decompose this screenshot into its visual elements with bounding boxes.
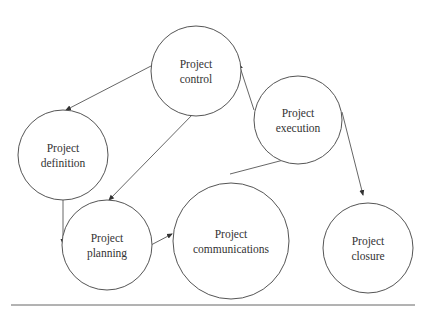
node-label-planning: Project — [91, 232, 124, 245]
node-label-control: control — [180, 73, 213, 85]
node-circle-closure — [323, 203, 413, 293]
arrow-planning-to-communications — [151, 234, 172, 245]
node-label-definition: definition — [41, 157, 86, 169]
arrow-control-to-definition — [66, 66, 151, 110]
node-label-planning: planning — [87, 247, 127, 260]
arrow-control-to-planning — [109, 112, 195, 200]
node-circle-communications — [173, 183, 289, 299]
node-label-communications: communications — [193, 243, 270, 255]
node-label-definition: Project — [47, 142, 80, 155]
node-communications: Projectcommunications — [173, 183, 289, 299]
node-closure: Projectclosure — [323, 203, 413, 293]
node-circle-execution — [254, 76, 342, 164]
node-label-communications: Project — [215, 228, 248, 241]
node-circle-planning — [62, 200, 152, 290]
node-definition: Projectdefinition — [18, 110, 108, 200]
node-control: Projectcontrol — [151, 26, 241, 116]
node-label-closure: closure — [351, 250, 384, 262]
project-process-diagram: ProjectcontrolProjectdefinitionProjectpl… — [0, 0, 427, 310]
node-circle-control — [151, 26, 241, 116]
node-label-control: Project — [180, 58, 213, 71]
node-planning: Projectplanning — [62, 200, 152, 290]
node-label-execution: execution — [276, 122, 321, 134]
node-label-execution: Project — [282, 107, 315, 120]
arrow-execution-to-closure — [342, 112, 363, 195]
nodes-layer: ProjectcontrolProjectdefinitionProjectpl… — [18, 26, 413, 299]
node-circle-definition — [18, 110, 108, 200]
node-label-closure: Project — [352, 235, 385, 248]
node-execution: Projectexecution — [254, 76, 342, 164]
